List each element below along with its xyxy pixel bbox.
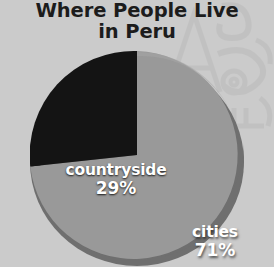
- slice-label-cities-percent: 71%: [172, 241, 258, 260]
- slice-label-countryside-name: countryside: [56, 162, 176, 179]
- slice-label-countryside-percent: 29%: [56, 179, 176, 198]
- slice-label-cities-name: cities: [172, 224, 258, 241]
- slice-label-countryside: countryside 29%: [56, 162, 176, 198]
- pie-chart: countryside 29% cities 71%: [30, 48, 244, 267]
- pie-chart-infographic: Where People Live in Peru countryside 29…: [0, 0, 274, 267]
- chart-title: Where People Live in Peru: [0, 1, 274, 42]
- pie-slice-countryside: [30, 51, 137, 167]
- slice-label-cities: cities 71%: [172, 224, 258, 260]
